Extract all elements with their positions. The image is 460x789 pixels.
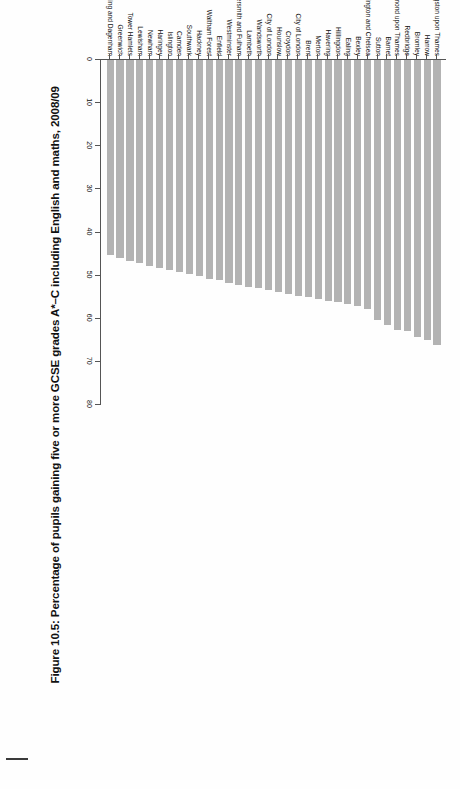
bar [344, 59, 351, 304]
value-tick-label: 10 [86, 98, 93, 106]
category-axis-line [101, 59, 446, 60]
bar-row: Bromley [412, 59, 422, 404]
bar [225, 59, 232, 283]
value-tick [95, 274, 101, 275]
plot-area: Kingston upon ThamesHarrowBromleyRedbrid… [46, 59, 446, 759]
category-tick [337, 54, 338, 59]
bar [295, 59, 302, 296]
bar [235, 59, 242, 285]
page-edge-mark [6, 758, 28, 760]
bar [305, 59, 312, 297]
category-label: Kingston upon Thames [434, 0, 441, 56]
value-tick [95, 59, 101, 60]
category-label: Sutton [374, 36, 381, 55]
bar-row: City of London [293, 59, 303, 404]
bar-row: Brent [303, 59, 313, 404]
bar [265, 59, 272, 290]
category-tick [426, 54, 427, 59]
value-tick [95, 231, 101, 232]
category-label: Lewisham [136, 26, 143, 56]
category-tick [396, 54, 397, 59]
bar [334, 59, 341, 302]
category-tick [416, 54, 417, 59]
bar-row: Enfield [214, 59, 224, 404]
bar [275, 59, 282, 292]
bar-row: Hillingdon [333, 59, 343, 404]
bar [404, 59, 411, 331]
category-tick [228, 54, 229, 59]
bar-row: Kingston upon Thames [432, 59, 442, 404]
category-label: City of London [295, 13, 302, 56]
value-tick-label: 30 [86, 184, 93, 192]
bar [176, 59, 183, 272]
bar [107, 59, 114, 255]
category-tick [277, 54, 278, 59]
category-tick [218, 54, 219, 59]
bar [374, 59, 381, 320]
category-label: Hammersmith and Fulham [235, 0, 242, 56]
bar-row: Greenwich [115, 59, 125, 404]
bar [255, 59, 262, 288]
category-label: Redbridge [404, 25, 411, 55]
category-tick [139, 54, 140, 59]
value-tick [95, 188, 101, 189]
category-tick [357, 54, 358, 59]
bar [196, 59, 203, 276]
category-label: Kensington and Chelsea [364, 0, 371, 56]
category-label: Barking and Dagenham [107, 0, 114, 56]
category-tick [317, 54, 318, 59]
category-label: Brent [305, 40, 312, 56]
bar-row: Haringey [155, 59, 165, 404]
bar [414, 59, 421, 337]
bar-row: Havering [323, 59, 333, 404]
bar-row: Redbridge [402, 59, 412, 404]
bar-row: Croydon [284, 59, 294, 404]
category-label: Greenwich [117, 24, 124, 56]
category-tick [248, 54, 249, 59]
value-tick [95, 145, 101, 146]
category-tick [109, 54, 110, 59]
category-label: City of London [265, 13, 272, 56]
category-tick [119, 54, 120, 59]
category-label: Waltham Forest [206, 9, 213, 55]
bar-row: Wandsworth [254, 59, 264, 404]
bar-row: Ealing [343, 59, 353, 404]
bar [136, 59, 143, 263]
category-label: Newham [146, 29, 153, 55]
category-label: Ealing [344, 37, 351, 55]
category-label: Bromley [414, 31, 421, 55]
value-tick-label: 70 [86, 356, 93, 364]
category-tick [377, 54, 378, 59]
bar-row: Hounslow [274, 59, 284, 404]
category-tick [406, 54, 407, 59]
category-tick [367, 54, 368, 59]
bar-row: Westminster [224, 59, 234, 404]
bar-row: Sutton [373, 59, 383, 404]
bar-row: Tower Hamlets [125, 59, 135, 404]
bar-row: Lewisham [135, 59, 145, 404]
category-label: Tower Hamlets [126, 12, 133, 56]
category-label: Haringey [156, 29, 163, 55]
value-tick-label: 50 [86, 270, 93, 278]
category-tick [287, 54, 288, 59]
category-tick [436, 54, 437, 59]
category-tick [258, 54, 259, 59]
category-label: Camden [176, 31, 183, 56]
category-label: Hackney [196, 30, 203, 56]
bar-row: Hackney [194, 59, 204, 404]
bar-row: Waltham Forest [204, 59, 214, 404]
bar [156, 59, 163, 268]
bar [166, 59, 173, 270]
bar [384, 59, 391, 325]
value-tick [95, 317, 101, 318]
category-tick [129, 54, 130, 59]
value-tick-label: 60 [86, 313, 93, 321]
category-label: Wandsworth [255, 19, 262, 55]
bar [245, 59, 252, 287]
figure-page: Figure 10.5: Percentage of pupils gainin… [0, 0, 460, 789]
bar [126, 59, 133, 261]
category-label: Richmond upon Thames [394, 0, 401, 56]
bar-row: Barking and Dagenham [105, 59, 115, 404]
bar [285, 59, 292, 294]
bar-row: Kensington and Chelsea [363, 59, 373, 404]
